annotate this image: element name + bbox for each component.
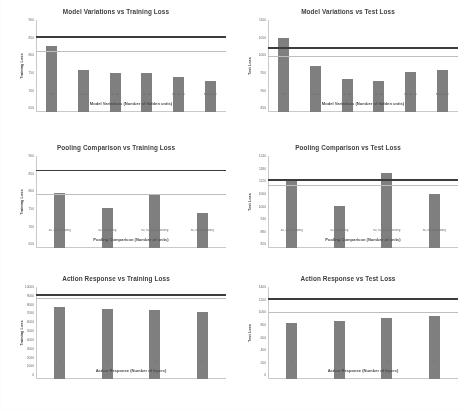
- plot-wrapper: Test Loss 12401180112010601000940880820: [232, 156, 464, 248]
- y-tick-label: 1400: [259, 286, 266, 290]
- x-tick-label: 80, 80, 80 pooling: [185, 229, 219, 232]
- y-tick-label: 600: [260, 337, 266, 341]
- x-tick-label: 40, 40 no pooling: [43, 229, 77, 232]
- x-tick-label: 4: [417, 360, 451, 363]
- figure-sheet: Model Variations vs Training Loss Traini…: [0, 0, 464, 410]
- y-axis-ticks: 1000090008000700060005000400030002000100…: [14, 287, 34, 379]
- x-axis-label: Action Response (Number of layers): [268, 368, 458, 373]
- y-tick-label: 1120: [259, 180, 266, 184]
- y-axis-ticks: 900850800750700650: [14, 156, 34, 248]
- x-axis-label: Model Variations (Number of hidden units…: [268, 101, 458, 106]
- plot-area: [36, 287, 226, 379]
- y-tick-label: 650: [28, 243, 34, 247]
- reference-line-baseline-light: [36, 298, 226, 299]
- y-tick-label: 1050: [259, 37, 266, 41]
- bar-series: [268, 156, 458, 248]
- y-tick-label: 850: [260, 107, 266, 111]
- reference-line-baseline-dark: [268, 47, 458, 48]
- x-tick-label: 80, 80, 80 no pooling: [370, 229, 404, 232]
- chart-title: Model Variations vs Test Loss: [232, 8, 464, 16]
- x-tick-label: 4: [185, 360, 219, 363]
- y-tick-label: 8000: [27, 304, 34, 308]
- y-tick-label: 750: [28, 208, 34, 212]
- plot-area: [36, 156, 226, 248]
- plot-area: [268, 287, 458, 379]
- x-tick-label: 1: [275, 360, 309, 363]
- x-tick-label: 80, 80: [131, 93, 163, 96]
- chart-action-response-training-loss: Action Response vs Training Loss Trainin…: [0, 267, 232, 398]
- y-tick-label: 650: [28, 107, 34, 111]
- x-tick-label: 80, 80: [363, 93, 395, 96]
- plot-wrapper: Test Loss 1400120010008006004002000: [232, 287, 464, 379]
- chart-title: Pooling Comparison vs Training Loss: [0, 144, 232, 152]
- chart-model-variations-training-loss: Model Variations vs Training Loss Traini…: [0, 0, 232, 136]
- chart-title: Model Variations vs Training Loss: [0, 8, 232, 16]
- x-axis-label: Model Variations (Number of hidden units…: [36, 101, 226, 106]
- y-tick-label: 820: [260, 243, 266, 247]
- x-tick-label: 40, 40, 40: [395, 93, 427, 96]
- y-tick-label: 400: [260, 349, 266, 353]
- x-axis-ticks: 4020, 2040, 4080, 8040, 40, 4080, 80, 80: [268, 93, 458, 96]
- y-axis-ticks: 110010501000950900850: [246, 20, 266, 112]
- reference-line-baseline-dark: [36, 170, 226, 171]
- y-axis-ticks: 900850800750700650: [14, 20, 34, 112]
- plot-wrapper: Training Loss 10000900080007000600050004…: [0, 287, 232, 379]
- y-tick-label: 950: [260, 72, 266, 76]
- x-tick-label: 3: [370, 360, 404, 363]
- y-tick-label: 900: [260, 90, 266, 94]
- y-tick-label: 200: [260, 362, 266, 366]
- y-tick-label: 700: [28, 226, 34, 230]
- y-tick-label: 800: [28, 190, 34, 194]
- x-axis-ticks: 40, 40 no pooling40, 40 pooling80, 80, 8…: [268, 229, 458, 232]
- x-tick-label: 20, 20: [300, 93, 332, 96]
- y-axis-ticks: 1400120010008006004002000: [246, 287, 266, 379]
- plot-wrapper: Training Loss 900850800750700650: [0, 20, 232, 112]
- chart-pooling-comparison-training-loss: Pooling Comparison vs Training Loss Trai…: [0, 136, 232, 267]
- chart-title: Action Response vs Training Loss: [0, 275, 232, 283]
- y-tick-label: 1000: [27, 365, 34, 369]
- x-tick-label: 80, 80, 80: [194, 93, 226, 96]
- y-tick-label: 4000: [27, 339, 34, 343]
- reference-line-baseline-dark: [268, 298, 458, 299]
- y-tick-label: 5000: [27, 330, 34, 334]
- y-tick-label: 800: [260, 324, 266, 328]
- bar-series: [268, 287, 458, 379]
- x-tick-label: 2: [322, 360, 356, 363]
- x-tick-label: 80, 80, 80 pooling: [417, 229, 451, 232]
- x-tick-label: 40: [268, 93, 300, 96]
- y-tick-label: 900: [28, 19, 34, 23]
- x-tick-label: 80, 80, 80 no pooling: [138, 229, 172, 232]
- bar-series: [36, 287, 226, 379]
- y-tick-label: 1240: [259, 155, 266, 159]
- x-tick-label: 40, 40 pooling: [322, 229, 356, 232]
- y-tick-label: 940: [260, 218, 266, 222]
- x-tick-label: 40, 40 no pooling: [275, 229, 309, 232]
- y-tick-label: 800: [28, 54, 34, 58]
- x-tick-label: 1: [43, 360, 77, 363]
- y-tick-label: 6000: [27, 321, 34, 325]
- reference-line-baseline-light: [268, 56, 458, 57]
- plot-wrapper: Training Loss 900850800750700650: [0, 156, 232, 248]
- y-tick-label: 850: [28, 37, 34, 41]
- chart-model-variations-test-loss: Model Variations vs Test Loss Test Loss …: [232, 0, 464, 136]
- y-tick-label: 900: [28, 155, 34, 159]
- reference-line-baseline-light: [268, 185, 458, 186]
- y-tick-label: 3000: [27, 348, 34, 352]
- y-tick-label: 1000: [259, 54, 266, 58]
- y-tick-label: 0: [32, 374, 34, 378]
- plot-area: [36, 20, 226, 112]
- x-axis-label: Pooling Comparison (Number of units): [268, 237, 458, 242]
- y-tick-label: 9000: [27, 295, 34, 299]
- y-tick-label: 0: [264, 374, 266, 378]
- x-tick-label: 40, 40 pooling: [90, 229, 124, 232]
- x-axis-label: Action Response (Number of layers): [36, 368, 226, 373]
- chart-pooling-comparison-test-loss: Pooling Comparison vs Test Loss Test Los…: [232, 136, 464, 267]
- y-tick-label: 1060: [259, 193, 266, 197]
- x-axis-ticks: 40, 40 no pooling40, 40 pooling80, 80, 8…: [36, 229, 226, 232]
- x-tick-label: 2: [90, 360, 124, 363]
- y-tick-label: 1000: [259, 311, 266, 315]
- y-tick-label: 2000: [27, 357, 34, 361]
- chart-title: Pooling Comparison vs Test Loss: [232, 144, 464, 152]
- x-tick-label: 40, 40, 40: [163, 93, 195, 96]
- bar-series: [36, 20, 226, 112]
